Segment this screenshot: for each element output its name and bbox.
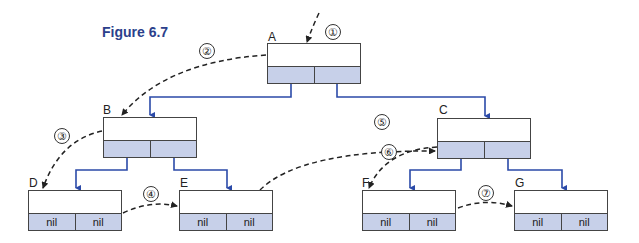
right-nil-field: nil	[561, 214, 608, 230]
tree-node-c	[437, 118, 531, 158]
tree-node-a	[267, 43, 361, 83]
right-nil-field: nil	[409, 214, 456, 230]
figure-title: Figure 6.7	[102, 24, 168, 40]
node-label-a: A	[268, 30, 276, 44]
node-data-field	[437, 118, 531, 142]
tree-node-d: nilnil	[28, 190, 122, 230]
figure-canvas: Figure 6.7 A B C D E F G ① ② ③ ④ ⑤ ⑥ ⑦ n…	[0, 0, 639, 243]
right-pointer-field	[314, 67, 361, 83]
node-label-c: C	[439, 103, 448, 117]
node-label-b: B	[103, 103, 111, 117]
left-nil-field: nil	[180, 214, 226, 230]
step-marker-2: ②	[199, 43, 215, 59]
left-nil-field: nil	[29, 214, 75, 230]
right-pointer-field	[150, 141, 197, 157]
left-pointer-field	[268, 67, 314, 83]
tree-node-b	[103, 117, 197, 157]
left-pointer-field	[438, 142, 484, 158]
left-pointer-field	[104, 141, 150, 157]
right-nil-field: nil	[75, 214, 122, 230]
tree-node-e: nilnil	[179, 190, 273, 230]
node-data-field	[267, 43, 361, 67]
node-data-field	[514, 190, 608, 214]
step-marker-5: ⑤	[374, 114, 390, 130]
tree-node-f: nilnil	[362, 190, 456, 230]
node-data-field	[28, 190, 122, 214]
step-marker-7: ⑦	[478, 185, 494, 201]
node-label-g: G	[515, 176, 524, 190]
node-label-d: D	[29, 176, 38, 190]
right-nil-field: nil	[226, 214, 273, 230]
right-pointer-field	[484, 142, 531, 158]
node-data-field	[103, 117, 197, 141]
node-data-field	[362, 190, 456, 214]
step-marker-6: ⑥	[381, 144, 397, 160]
step-marker-3: ③	[54, 128, 70, 144]
left-nil-field: nil	[515, 214, 561, 230]
left-nil-field: nil	[363, 214, 409, 230]
step-marker-4: ④	[143, 186, 159, 202]
step-marker-1: ①	[325, 24, 341, 40]
node-label-e: E	[180, 176, 188, 190]
node-label-f: F	[362, 176, 369, 190]
tree-node-g: nilnil	[514, 190, 608, 230]
node-data-field	[179, 190, 273, 214]
